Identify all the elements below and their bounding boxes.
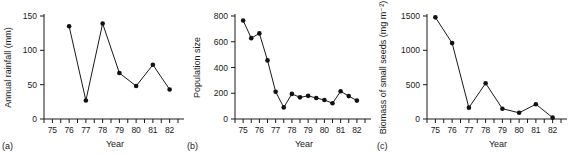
x-axis-tick-label: 79 — [303, 125, 313, 135]
data-point — [346, 94, 351, 99]
y-axis-tick-label: 150 — [23, 11, 37, 21]
x-axis-tick-label: 82 — [165, 125, 175, 135]
series-line — [69, 24, 170, 101]
data-point — [433, 15, 438, 20]
chart-a-svg: 0501001507576777879808182YearAnnual rain… — [0, 0, 190, 154]
data-point — [500, 106, 505, 111]
chart-panel-a: 0501001507576777879808182YearAnnual rain… — [0, 0, 190, 154]
x-axis-tick-label: 79 — [498, 125, 508, 135]
x-axis-title: Year — [106, 139, 124, 149]
y-axis-title: Annual rainfall (mm) — [3, 27, 13, 108]
x-axis-title: Year — [489, 139, 507, 149]
x-axis-tick-label: 76 — [255, 125, 265, 135]
x-axis-tick-label: 80 — [131, 125, 141, 135]
panel-label-a: (a) — [2, 141, 13, 151]
x-axis-tick-label: 75 — [431, 125, 441, 135]
y-axis-tick-label: 1500 — [401, 11, 420, 21]
y-axis-title: Population size — [192, 37, 202, 98]
data-point — [314, 96, 319, 101]
x-axis-tick-label: 78 — [98, 125, 108, 135]
chart-c-svg: 0500100015007576777879808182YearBiomass … — [375, 0, 570, 154]
data-point — [273, 89, 278, 94]
panel-label-b: (b) — [187, 141, 198, 151]
x-axis-tick-label: 82 — [548, 125, 558, 135]
y-axis-tick-label: 50 — [28, 80, 38, 90]
y-axis-title: Biomass of small seeds (mg m⁻²) — [378, 1, 388, 135]
data-point — [517, 111, 522, 116]
x-axis-tick-label: 78 — [287, 125, 297, 135]
y-axis-tick-label: 600 — [214, 37, 228, 47]
data-point — [450, 41, 455, 46]
y-axis-tick-label: 0 — [223, 114, 228, 124]
x-axis-tick-label: 81 — [148, 125, 158, 135]
panel-label-c: (c) — [377, 141, 388, 151]
chart-b-svg: 02004006008007576777879808182YearPopulat… — [185, 0, 375, 154]
data-point — [281, 105, 286, 110]
data-point — [467, 105, 472, 110]
figure-container: 0501001507576777879808182YearAnnual rain… — [0, 0, 570, 154]
data-point — [306, 94, 311, 99]
x-axis-tick-label: 82 — [352, 125, 362, 135]
y-axis-tick-label: 400 — [214, 63, 228, 73]
data-point — [249, 36, 254, 41]
y-axis-tick-label: 500 — [406, 80, 420, 90]
data-point — [241, 18, 246, 23]
x-axis-tick-label: 78 — [481, 125, 491, 135]
x-axis-title: Year — [295, 139, 313, 149]
x-axis-tick-label: 76 — [447, 125, 457, 135]
data-point — [330, 101, 335, 106]
x-axis-tick-label: 77 — [81, 125, 91, 135]
data-point — [67, 24, 72, 29]
data-point — [290, 92, 295, 97]
data-point — [167, 87, 172, 92]
data-point — [322, 98, 327, 103]
data-point — [84, 98, 89, 103]
x-axis-tick-label: 75 — [48, 125, 58, 135]
x-axis-tick-label: 81 — [531, 125, 541, 135]
y-axis-tick-label: 800 — [214, 11, 228, 21]
data-point — [483, 81, 488, 86]
data-point — [338, 89, 343, 94]
y-axis-tick-label: 0 — [415, 114, 420, 124]
y-axis-tick-label: 1000 — [401, 45, 420, 55]
data-point — [355, 98, 360, 103]
data-point — [298, 95, 303, 100]
data-point — [117, 71, 122, 76]
data-point — [151, 62, 156, 67]
chart-panel-b: 02004006008007576777879808182YearPopulat… — [185, 0, 375, 154]
x-axis-tick-label: 80 — [320, 125, 330, 135]
x-axis-tick-label: 79 — [115, 125, 125, 135]
chart-panel-c: 0500100015007576777879808182YearBiomass … — [375, 0, 570, 154]
y-axis-tick-label: 100 — [23, 45, 37, 55]
x-axis-tick-label: 75 — [238, 125, 248, 135]
data-point — [257, 31, 262, 36]
data-point — [100, 21, 105, 26]
y-axis-tick-label: 0 — [32, 114, 37, 124]
x-axis-tick-label: 77 — [464, 125, 474, 135]
x-axis-tick-label: 80 — [514, 125, 524, 135]
y-axis-tick-label: 200 — [214, 88, 228, 98]
data-point — [134, 84, 139, 89]
x-axis-tick-label: 81 — [336, 125, 346, 135]
x-axis-tick-label: 76 — [64, 125, 74, 135]
data-point — [550, 115, 555, 120]
data-point — [265, 58, 270, 63]
x-axis-tick-label: 77 — [271, 125, 281, 135]
data-point — [534, 102, 539, 107]
